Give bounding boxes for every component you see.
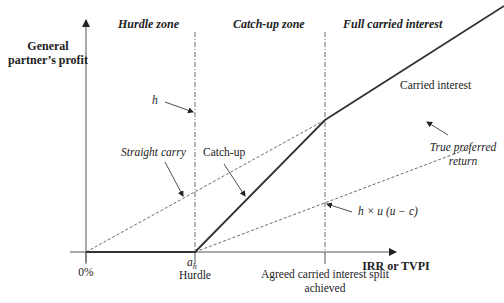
tick-split-label-line2: achieved [305, 282, 346, 294]
straight-carry-label: Straight carry [121, 146, 187, 159]
catch-up-arrow [224, 164, 245, 196]
tick-split-label-line1: Agreed carried interest split [261, 268, 390, 281]
true-preferred-arrow [427, 122, 448, 135]
gp-profit-line [86, 6, 504, 252]
zone-hurdle-label: Hurdle zone [117, 17, 180, 31]
true-preferred-label-line1: True preferred [430, 141, 497, 154]
zone-catchup-label: Catch-up zone [233, 17, 305, 31]
formula-arrow [327, 204, 352, 212]
zone-full-label: Full carried interest [342, 17, 443, 31]
h-pointer-arrow [165, 102, 193, 112]
tick-hurdle-label: Hurdle [179, 269, 211, 281]
straight-carry-line [86, 120, 325, 252]
straight-carry-arrow [165, 162, 183, 196]
formula-label: h × u (u − c) [358, 205, 418, 218]
h-label: h [152, 94, 158, 106]
y-axis-label-line1: General [27, 39, 69, 53]
true-preferred-label-line2: return [449, 155, 478, 167]
true-preferred-return-line [195, 148, 470, 252]
y-axis-label-line2: partner’s profit [8, 53, 88, 67]
catch-up-label: Catch-up [203, 146, 245, 159]
carried-interest-label: Carried interest [400, 79, 472, 91]
carried-interest-diagram: Hurdle zone Catch-up zone Full carried i… [0, 0, 504, 303]
tick-zero-label: 0% [78, 266, 94, 278]
